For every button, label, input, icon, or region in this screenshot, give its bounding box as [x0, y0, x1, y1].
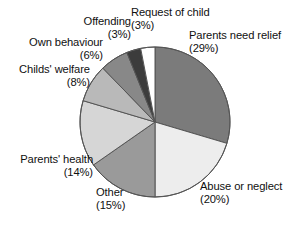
slice-label-text: Childs' welfare	[19, 63, 90, 75]
slice-label-own-behaviour: Own behaviour (6%)	[13, 36, 103, 62]
slice-label-text: Request of child	[131, 6, 210, 18]
slice-label-percent: (20%)	[200, 193, 282, 206]
slice-label-other: Other (15%)	[96, 186, 152, 212]
slice-label-percent: (15%)	[96, 199, 152, 212]
slice-label-percent: (29%)	[189, 42, 281, 55]
slice-label-abuse-or-neglect: Abuse or neglect (20%)	[200, 180, 282, 206]
slice-label-percent: (8%)	[7, 76, 90, 89]
pie-chart: Request of child (3%) Parents need relie…	[0, 0, 297, 232]
slice-label-text: Abuse or neglect	[200, 180, 282, 192]
slice-label-text: Parents' health	[20, 153, 93, 165]
slice-label-text: Own behaviour	[29, 36, 103, 48]
slice-label-text: Parents need relief	[189, 29, 281, 41]
slice-label-percent: (14%)	[4, 166, 93, 179]
slice-label-text: Offending	[84, 15, 131, 27]
slice-label-childs-welfare: Childs' welfare (8%)	[7, 63, 90, 89]
slice-label-parents-need-relief: Parents need relief (29%)	[189, 29, 281, 55]
slice-label-parents-health: Parents' health (14%)	[4, 153, 93, 179]
slice-label-text: Other	[96, 186, 123, 198]
slice-label-percent: (6%)	[13, 49, 103, 62]
